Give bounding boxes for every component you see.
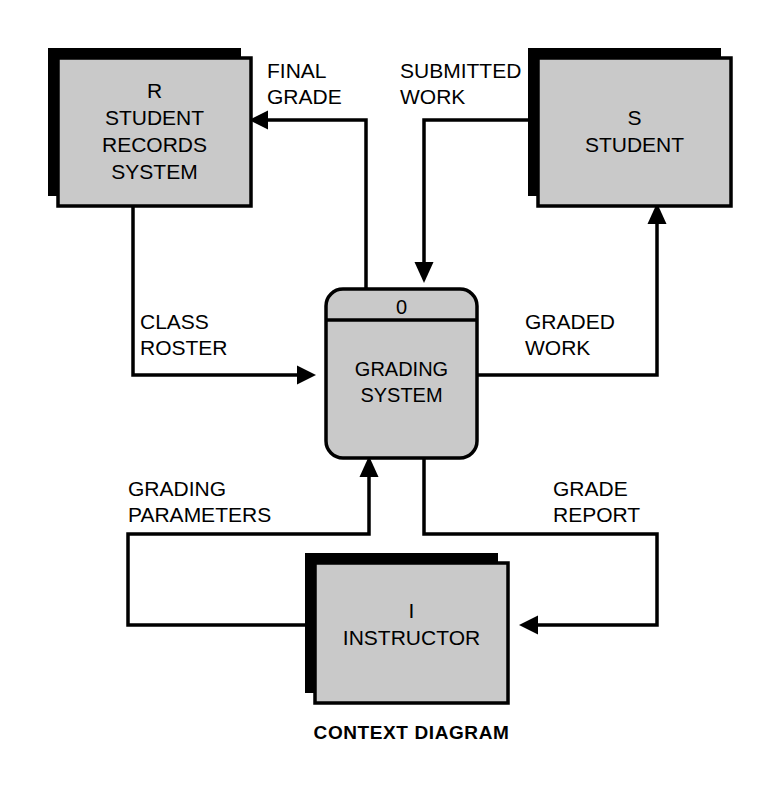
flow-label-line2: REPORT	[553, 503, 640, 526]
context-diagram-page: R STUDENT RECORDS SYSTEM S STUDENT I INS…	[0, 0, 773, 788]
flow-label-line2: GRADE	[267, 85, 342, 108]
flow-label-line1: CLASS	[140, 310, 209, 333]
flow-label-grade-report: GRADE REPORT	[553, 477, 640, 526]
entity-code: S	[627, 106, 641, 129]
process-name-line2: SYSTEM	[360, 384, 442, 406]
flow-label-line2: WORK	[525, 336, 590, 359]
arrowhead-grade-report	[519, 616, 538, 635]
flow-label-line1: FINAL	[267, 59, 327, 82]
entity-student-records-system[interactable]: R STUDENT RECORDS SYSTEM	[48, 48, 251, 206]
process-name-line1: GRADING	[355, 358, 448, 380]
entity-body	[538, 58, 731, 206]
entity-instructor[interactable]: I INSTRUCTOR	[305, 553, 508, 703]
entity-name-line3: SYSTEM	[111, 160, 197, 183]
flow-label-final-grade: FINAL GRADE	[267, 59, 342, 108]
entity-name-line2: RECORDS	[102, 133, 207, 156]
process-grading-system[interactable]: 0 GRADING SYSTEM	[326, 289, 477, 458]
entity-name-line1: STUDENT	[585, 133, 684, 156]
diagram-canvas: R STUDENT RECORDS SYSTEM S STUDENT I INS…	[0, 0, 773, 788]
flow-label-line2: PARAMETERS	[128, 503, 271, 526]
flow-label-line1: SUBMITTED	[400, 59, 521, 82]
entity-name-line1: STUDENT	[105, 106, 204, 129]
flow-label-line1: GRADING	[128, 477, 226, 500]
flow-label-graded-work: GRADED WORK	[525, 310, 615, 359]
flow-label-line1: GRADED	[525, 310, 615, 333]
entity-student[interactable]: S STUDENT	[528, 48, 731, 206]
process-number: 0	[396, 296, 407, 318]
entity-name-line1: INSTRUCTOR	[343, 626, 480, 649]
flow-final-grade	[249, 111, 366, 290]
flow-label-line2: ROSTER	[140, 336, 228, 359]
diagram-caption: CONTEXT DIAGRAM	[314, 722, 510, 743]
entity-code: R	[147, 79, 162, 102]
entity-code: I	[409, 599, 415, 622]
flow-label-class-roster: CLASS ROSTER	[140, 310, 228, 359]
flow-label-grading-parameters: GRADING PARAMETERS	[128, 477, 271, 526]
flow-label-submitted-work: SUBMITTED WORK	[400, 59, 521, 108]
arrowhead-submitted-work	[415, 262, 434, 283]
flow-label-line2: WORK	[400, 85, 465, 108]
flow-submitted-work	[415, 120, 538, 283]
flow-label-line1: GRADE	[553, 477, 628, 500]
arrowhead-class-roster	[297, 366, 316, 385]
